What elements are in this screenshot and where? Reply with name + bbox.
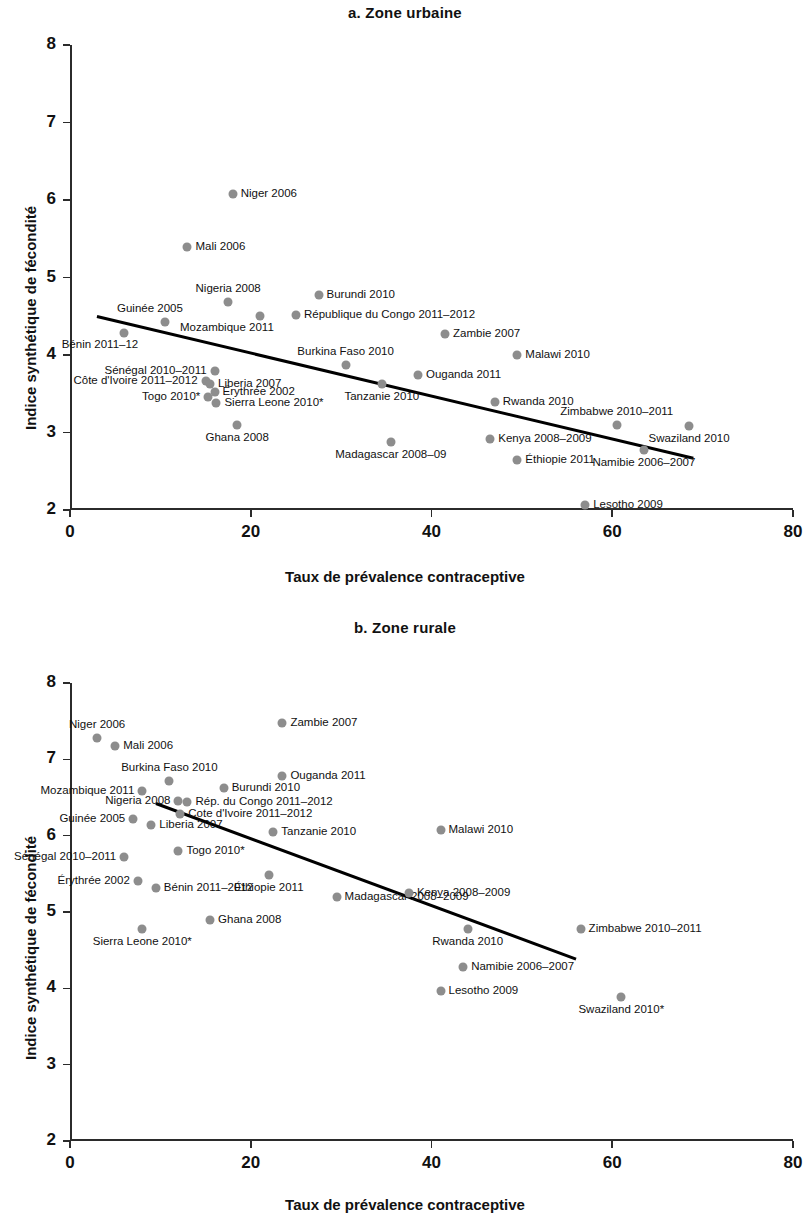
y-tick-b-6 <box>63 835 70 837</box>
y-tick-a-5 <box>63 277 70 279</box>
data-point-label: Éthiopie 2011 <box>234 883 303 895</box>
data-point-label: Tanzanie 2010 <box>344 391 419 403</box>
x-tick-label-b-80: 80 <box>773 1153 810 1173</box>
data-point-label: Guinée 2005 <box>117 304 183 316</box>
data-point-label: Burundi 2010 <box>327 289 395 301</box>
data-point <box>513 351 522 360</box>
x-axis-title-b: Taux de prévalence contraceptive <box>0 1196 810 1213</box>
data-point-label: Zambie 2007 <box>453 328 520 340</box>
data-point-label: Namibie 2006–2007 <box>471 961 574 973</box>
y-tick-a-7 <box>63 122 70 124</box>
data-point <box>111 741 120 750</box>
x-tick-a-40 <box>431 510 433 517</box>
x-tick-label-a-40: 40 <box>412 522 452 542</box>
data-point-label: Nigeria 2008 <box>105 795 170 807</box>
data-point <box>120 329 129 338</box>
data-point <box>255 312 264 321</box>
data-point-label: Zimbabwe 2010–2011 <box>560 406 673 418</box>
data-point <box>413 371 422 380</box>
data-point-label: Niger 2006 <box>69 719 125 731</box>
panel-zone-rurale: b. Zone rurale 2345678020406080Zambie 20… <box>0 615 810 1230</box>
data-point <box>459 962 468 971</box>
y-tick-b-3 <box>63 1064 70 1066</box>
data-point <box>490 397 499 406</box>
data-point <box>612 420 621 429</box>
y-tick-b-4 <box>63 988 70 990</box>
data-point <box>233 420 242 429</box>
data-point <box>278 718 287 727</box>
panel-zone-urbaine: a. Zone urbaine 2345678020406080Niger 20… <box>0 0 810 615</box>
figure-root: a. Zone urbaine 2345678020406080Niger 20… <box>0 0 810 1230</box>
y-axis-line-b <box>70 683 72 1141</box>
data-point-label: Niger 2006 <box>241 188 297 200</box>
y-tick-label-b-7: 7 <box>22 748 56 768</box>
data-point-label: Nigeria 2008 <box>196 284 261 296</box>
panel-a-title: a. Zone urbaine <box>0 4 810 21</box>
data-point-label: République du Congo 2011–2012 <box>304 309 475 321</box>
data-point-label: Éthiopie 2011 <box>525 454 594 466</box>
data-point-label: Malawi 2010 <box>449 825 514 837</box>
x-tick-a-60 <box>611 510 613 517</box>
data-point <box>278 772 287 781</box>
data-point-label: Sierra Leone 2010* <box>224 397 323 409</box>
data-point-label: Kenya 2008–2009 <box>417 887 510 899</box>
data-point <box>93 733 102 742</box>
panel-b-title: b. Zone rurale <box>0 619 810 636</box>
data-point <box>377 379 386 388</box>
x-tick-a-80 <box>792 510 794 517</box>
data-point <box>486 434 495 443</box>
data-point-label: Ghana 2008 <box>206 432 269 444</box>
data-point <box>463 924 472 933</box>
data-point <box>332 892 341 901</box>
data-point <box>581 500 590 509</box>
data-point-label: Côte d'Ivoire 2011–2012 <box>73 375 197 387</box>
data-point <box>441 330 450 339</box>
data-point-label: Liberia 2007 <box>159 819 222 831</box>
data-point <box>183 798 192 807</box>
data-point <box>639 446 648 455</box>
data-point-label: Malawi 2010 <box>525 349 590 361</box>
data-point-label: Swaziland 2010 <box>648 434 729 446</box>
data-point-label: Zambie 2007 <box>290 717 357 729</box>
y-tick-label-a-8: 8 <box>22 34 56 54</box>
data-point <box>174 796 183 805</box>
x-tick-b-60 <box>611 1141 613 1148</box>
y-tick-b-5 <box>63 911 70 913</box>
data-point <box>160 318 169 327</box>
data-point-label: Burkina Faso 2010 <box>121 762 218 774</box>
y-tick-label-a-2: 2 <box>22 499 56 519</box>
data-point-label: Ghana 2008 <box>218 914 281 926</box>
x-tick-label-b-0: 0 <box>50 1153 90 1173</box>
y-tick-a-4 <box>63 354 70 356</box>
data-point <box>228 189 237 198</box>
data-point <box>224 298 233 307</box>
data-point <box>210 366 219 375</box>
data-point-label: Togo 2010* <box>142 391 200 403</box>
data-point <box>133 877 142 886</box>
trend-line-a <box>97 315 694 459</box>
x-tick-a-20 <box>250 510 252 517</box>
data-point-label: Tanzanie 2010 <box>281 826 356 838</box>
x-tick-label-b-20: 20 <box>231 1153 271 1173</box>
y-tick-label-a-7: 7 <box>22 112 56 132</box>
x-tick-label-b-60: 60 <box>592 1153 632 1173</box>
x-tick-b-0 <box>69 1141 71 1148</box>
data-point-label: Mozambique 2011 <box>180 323 274 335</box>
data-point <box>219 784 228 793</box>
x-tick-b-80 <box>792 1141 794 1148</box>
data-point-label: Namibie 2006–2007 <box>592 458 695 470</box>
data-point <box>206 915 215 924</box>
data-point-label: Lesotho 2009 <box>593 499 663 511</box>
data-point <box>174 846 183 855</box>
y-tick-label-b-8: 8 <box>22 672 56 692</box>
data-point <box>436 826 445 835</box>
data-point <box>513 455 522 464</box>
data-point-label: Guinée 2005 <box>59 813 125 825</box>
data-point-label: Zimbabwe 2010–2011 <box>589 923 702 935</box>
y-tick-b-7 <box>63 759 70 761</box>
data-point-label: Mali 2006 <box>123 740 173 752</box>
y-axis-title-b: Indice synthétique de fécondité <box>22 836 39 1060</box>
data-point-label: Mali 2006 <box>195 241 245 253</box>
y-tick-b-8 <box>63 682 70 684</box>
data-point <box>183 242 192 251</box>
